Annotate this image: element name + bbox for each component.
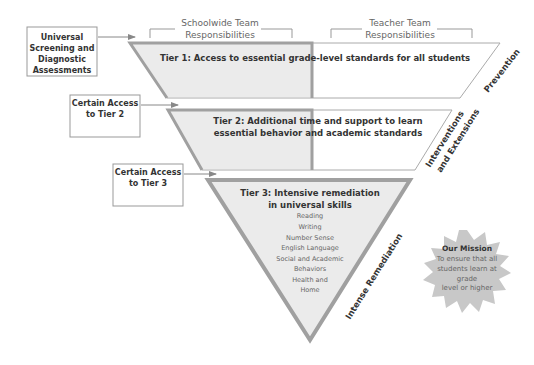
tier3-title-line1: Tier 3: Intensive remediation — [240, 188, 379, 198]
pyramid-of-interventions-diagram: Schoolwide Team Responsibilities Teacher… — [0, 0, 534, 365]
svg-text:students learn at: students learn at — [437, 265, 497, 273]
skill-item: Number Sense — [286, 234, 334, 242]
svg-text:Diagnostic: Diagnostic — [38, 55, 86, 64]
tier1-title: Tier 1: Access to essential grade-level … — [160, 53, 470, 63]
teacher-header-line1: Teacher Team — [368, 18, 431, 28]
svg-text:Certain Access: Certain Access — [115, 168, 182, 177]
tier3-title-line2: in universal skills — [268, 200, 352, 210]
schoolwide-header: Schoolwide Team Responsibilities — [150, 18, 292, 40]
skill-item: English Language — [281, 244, 339, 252]
svg-text:Universal: Universal — [41, 33, 84, 42]
svg-text:to Tier 2: to Tier 2 — [86, 110, 124, 119]
skill-item: Writing — [298, 223, 321, 231]
skill-item: Behaviors — [294, 265, 327, 273]
skill-item: Home — [300, 286, 319, 294]
tier3-triangle: Tier 3: Intensive remediation in univers… — [208, 180, 410, 340]
teacher-header-line2: Responsibilities — [365, 30, 435, 40]
tier2-title-line1: Tier 2: Additional time and support to l… — [213, 116, 422, 126]
schoolwide-header-line1: Schoolwide Team — [181, 18, 259, 28]
svg-text:grade: grade — [457, 275, 477, 283]
skill-item: Reading — [297, 212, 323, 220]
skill-item: Health and — [292, 276, 328, 284]
tier2-band: Tier 2: Additional time and support to l… — [168, 107, 481, 174]
schoolwide-header-line2: Responsibilities — [185, 30, 255, 40]
svg-text:level or higher: level or higher — [442, 284, 493, 292]
universal-screening-box: Universal Screening and Diagnostic Asses… — [27, 27, 135, 76]
svg-text:to Tier 3: to Tier 3 — [129, 179, 167, 188]
tier2-title-line2: essential behavior and academic standard… — [214, 128, 422, 138]
svg-text:Assessments: Assessments — [33, 66, 92, 75]
access-tier2-box: Certain Access to Tier 2 — [70, 95, 178, 137]
svg-text:Certain Access: Certain Access — [72, 99, 139, 108]
mission-title: Our Mission — [442, 244, 492, 253]
teacher-header: Teacher Team Responsibilities — [331, 18, 472, 40]
svg-text:Screening and: Screening and — [30, 44, 95, 53]
svg-text:To ensure that all: To ensure that all — [436, 255, 497, 263]
tier1-band: Tier 1: Access to essential grade-level … — [130, 43, 522, 98]
skill-item: Social and Academic — [276, 255, 344, 263]
mission-starburst: Our Mission To ensure that all students … — [423, 230, 511, 313]
